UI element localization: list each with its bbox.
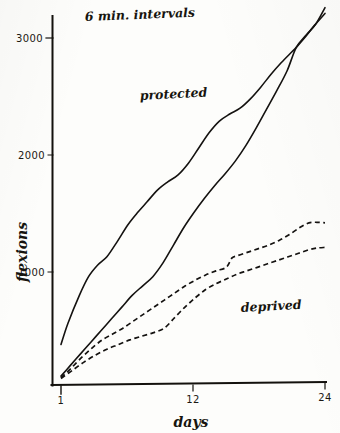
y-axis-label: flexions bbox=[14, 222, 30, 283]
series-line-protected-lower bbox=[61, 8, 325, 377]
series-line-protected-upper bbox=[61, 13, 325, 344]
annotation-deprived: deprived bbox=[240, 297, 302, 315]
series-line-deprived-lower bbox=[61, 247, 325, 378]
chart-title: 6 min. intervals bbox=[85, 5, 196, 24]
x-tick-label-12: 12 bbox=[186, 394, 200, 405]
x-axis-label: days bbox=[174, 414, 209, 430]
y-tick-label-3000: 3000 bbox=[16, 33, 43, 44]
annotation-protected: protected bbox=[139, 84, 207, 103]
x-axis-line bbox=[52, 382, 327, 385]
x-tick-label-1: 1 bbox=[58, 395, 65, 406]
x-tick-label-24: 24 bbox=[318, 392, 332, 403]
y-tick-label-2000: 2000 bbox=[18, 150, 45, 161]
line-chart-figure: 3000 2000 1000 1 12 24 6 min. intervals … bbox=[0, 0, 340, 433]
